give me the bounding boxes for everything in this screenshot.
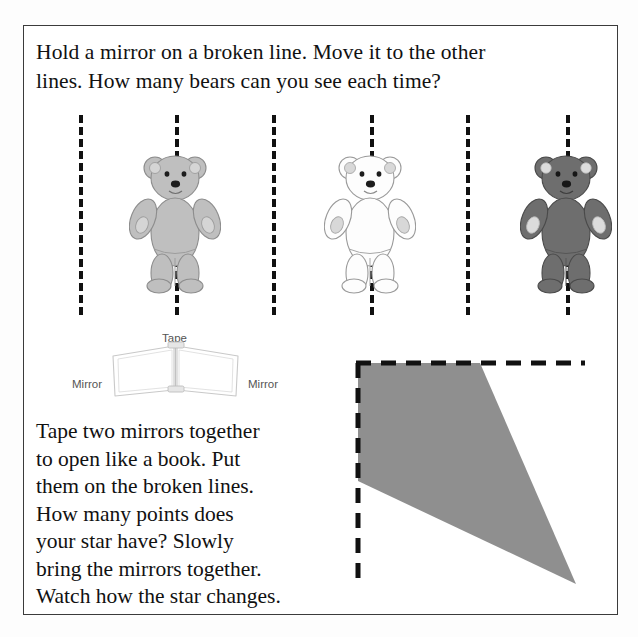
star-figure	[330, 345, 610, 605]
body-line-2: to open like a book. Put	[36, 446, 336, 474]
body-line-3: them on the broken lines.	[36, 473, 336, 501]
body-line-5: your star have? Slowly	[36, 528, 336, 556]
broken-line-3	[272, 115, 276, 315]
body-line-6: bring the mirrors together.	[36, 556, 336, 584]
broken-line-5	[466, 115, 470, 315]
body-paragraph: Tape two mirrors together to open like a…	[36, 418, 336, 611]
mirror-diagram: Tape Mirror Mirror	[60, 330, 295, 408]
body-line-7: Watch how the star changes.	[36, 583, 336, 611]
worksheet-page: Hold a mirror on a broken line. Move it …	[0, 0, 638, 637]
bear-white	[324, 146, 416, 294]
bear-dark	[520, 146, 612, 294]
mirror-label-left: Mirror	[72, 378, 102, 390]
bears-activity	[23, 110, 618, 322]
star-wedge-shape	[358, 363, 576, 584]
broken-line-1	[79, 115, 83, 315]
body-line-4: How many points does	[36, 501, 336, 529]
heading-line-2: lines. How many bears can you see each t…	[36, 67, 596, 96]
hinged-mirrors-illustration	[110, 338, 242, 400]
mirror-label-right: Mirror	[248, 378, 278, 390]
page-heading: Hold a mirror on a broken line. Move it …	[36, 38, 596, 96]
body-line-1: Tape two mirrors together	[36, 418, 336, 446]
bear-gray	[129, 146, 221, 294]
heading-line-1: Hold a mirror on a broken line. Move it …	[36, 38, 596, 67]
